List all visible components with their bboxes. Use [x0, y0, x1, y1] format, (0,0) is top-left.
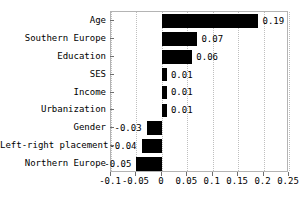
- bar-value-label: -0.05: [104, 160, 131, 169]
- y-axis-tick: [110, 109, 114, 110]
- bar[interactable]: [162, 32, 198, 46]
- x-axis-tick-labels: -0.1-0.0500.050.10.150.20.25: [110, 177, 288, 191]
- y-axis-tick: [110, 127, 114, 128]
- y-axis-category-labels: AgeSouthern EuropeEducationSESIncomeUrba…: [0, 11, 106, 172]
- bar-row: -0.03: [111, 121, 287, 135]
- bar-value-label: -0.04: [109, 142, 136, 151]
- bar-value-label: 0.07: [201, 34, 223, 43]
- y-axis-label: SES: [0, 69, 106, 78]
- bar[interactable]: [162, 68, 167, 82]
- bar-row: 0.01: [111, 104, 287, 118]
- x-axis-tick-label: 0.2: [254, 177, 270, 186]
- x-axis-tick-label: -0.05: [122, 177, 149, 186]
- bar-row: 0.19: [111, 14, 287, 28]
- bar-row: 0.01: [111, 68, 287, 82]
- plot-area: 0.190.070.060.010.010.01-0.03-0.04-0.05: [110, 11, 288, 172]
- bar-row: -0.05: [111, 157, 287, 171]
- bar-value-label: 0.06: [196, 52, 218, 61]
- x-axis-tick-label: 0.05: [175, 177, 197, 186]
- bar[interactable]: [162, 50, 193, 64]
- x-axis-tick-label: 0: [158, 177, 163, 186]
- y-axis-tick: [110, 92, 114, 93]
- bar-series: 0.190.070.060.010.010.01-0.03-0.04-0.05: [111, 12, 287, 171]
- bar-row: -0.04: [111, 139, 287, 153]
- y-axis-tick: [110, 163, 114, 164]
- y-axis-tick: [110, 145, 114, 146]
- bar-row: 0.01: [111, 86, 287, 100]
- x-axis-tick-label: 0.1: [204, 177, 220, 186]
- bar[interactable]: [162, 104, 167, 118]
- y-axis-tick: [110, 74, 114, 75]
- gridline: [289, 12, 291, 171]
- bar-row: 0.06: [111, 50, 287, 64]
- bar[interactable]: [162, 14, 259, 28]
- bar-value-label: -0.03: [115, 124, 142, 133]
- bar[interactable]: [142, 139, 162, 153]
- y-axis-label: Age: [0, 15, 106, 24]
- y-axis-label: Gender: [0, 123, 106, 132]
- y-axis-tick: [110, 20, 114, 21]
- bar[interactable]: [162, 86, 167, 100]
- x-axis-tick-label: -0.1: [99, 177, 121, 186]
- y-axis-tick: [110, 38, 114, 39]
- y-axis-tick: [110, 56, 114, 57]
- bar[interactable]: [136, 157, 161, 171]
- y-axis-label: Northern Europe: [0, 159, 106, 168]
- y-axis-label: Income: [0, 87, 106, 96]
- bar-value-label: 0.01: [171, 106, 193, 115]
- bar-value-label: 0.19: [262, 16, 284, 25]
- bar[interactable]: [147, 121, 162, 135]
- y-axis-label: Southern Europe: [0, 33, 106, 42]
- y-axis-label: Education: [0, 51, 106, 60]
- x-axis-tick-label: 0.15: [226, 177, 248, 186]
- bar-value-label: 0.01: [171, 88, 193, 97]
- bar-chart-figure: AgeSouthern EuropeEducationSESIncomeUrba…: [0, 0, 304, 203]
- bar-row: 0.07: [111, 32, 287, 46]
- y-axis-label: Urbanization: [0, 105, 106, 114]
- y-axis-label: Left-right placement: [0, 141, 106, 150]
- bar-value-label: 0.01: [171, 70, 193, 79]
- x-axis-tick-label: 0.25: [277, 177, 299, 186]
